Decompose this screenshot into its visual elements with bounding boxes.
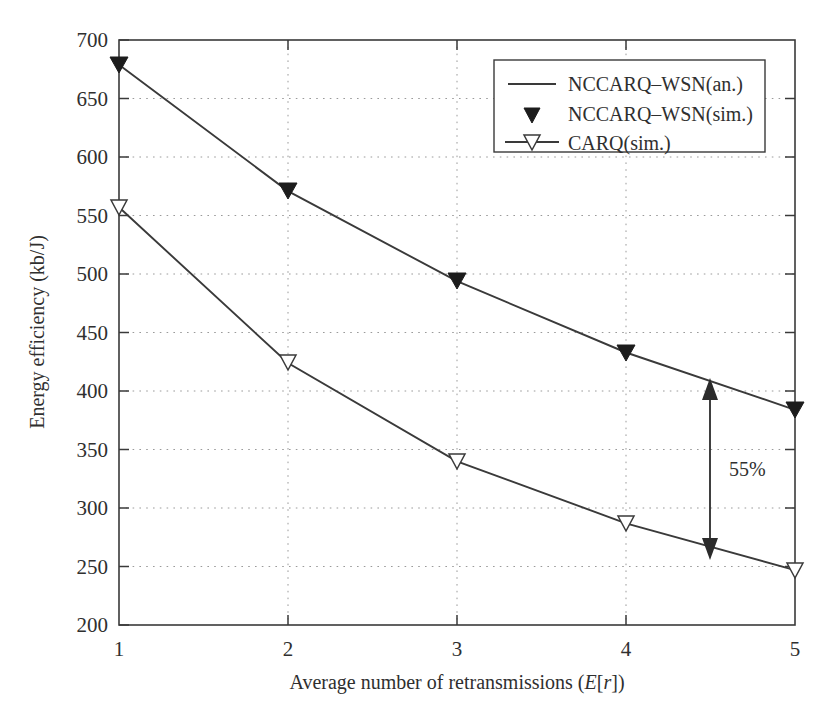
legend-label-0: NCCARQ–WSN(an.) — [568, 73, 743, 96]
legend-label-2: CARQ(sim.) — [568, 132, 671, 155]
x-axis-title-bracket-open: [ — [597, 671, 604, 693]
legend-label-1: NCCARQ–WSN(sim.) — [568, 103, 753, 126]
y-tick-label-250: 250 — [77, 555, 109, 579]
x-tick-label-2: 2 — [283, 637, 294, 661]
x-tick-label-3: 3 — [452, 637, 463, 661]
x-tick-label-4: 4 — [621, 637, 632, 661]
y-tick-label-200: 200 — [77, 613, 109, 637]
y-tick-label-350: 350 — [77, 438, 109, 462]
x-axis-title-prefix: Average number of retransmissions ( — [289, 671, 584, 694]
y-tick-label-550: 550 — [77, 204, 109, 228]
y-tick-label-700: 700 — [77, 28, 109, 52]
y-tick-label-500: 500 — [77, 262, 109, 286]
chart-figure: 200 250 300 350 400 450 500 550 600 650 … — [0, 0, 839, 705]
y-tick-label-650: 650 — [77, 87, 109, 111]
chart-legend: NCCARQ–WSN(an.) NCCARQ–WSN(sim.) CARQ(si… — [494, 60, 765, 155]
x-axis-title-suffix: ) — [618, 671, 625, 694]
x-tick-label-1: 1 — [114, 637, 125, 661]
y-tick-label-300: 300 — [77, 496, 109, 520]
y-tick-label-600: 600 — [77, 145, 109, 169]
y-tick-label-400: 400 — [77, 379, 109, 403]
x-axis-title-e: E — [584, 671, 597, 693]
x-axis-title-r: r — [603, 671, 611, 693]
annotation-label: 55% — [729, 458, 766, 480]
x-axis-title: Average number of retransmissions (E[r]) — [289, 671, 624, 694]
x-axis-title-bracket-close: ] — [611, 671, 618, 693]
y-tick-label-450: 450 — [77, 321, 109, 345]
x-tick-label-5: 5 — [790, 637, 801, 661]
energy-efficiency-line-chart: 200 250 300 350 400 450 500 550 600 650 … — [0, 0, 839, 705]
y-axis-title: Energy efficiency (kb/J) — [26, 235, 49, 429]
